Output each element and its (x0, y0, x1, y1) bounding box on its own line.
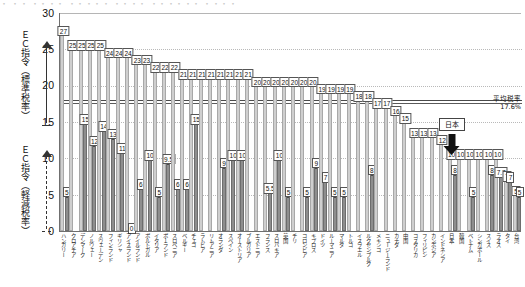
bar-group[interactable] (199, 13, 208, 231)
standard-rate-bar[interactable] (384, 107, 388, 231)
bar-group[interactable] (273, 13, 282, 231)
reduced-rate-bar[interactable] (102, 129, 106, 231)
bar-group[interactable] (282, 13, 291, 231)
bar-group[interactable] (263, 13, 272, 231)
standard-rate-bar[interactable] (106, 57, 110, 231)
reduced-rate-bar[interactable] (83, 122, 87, 231)
standard-rate-bar[interactable] (69, 49, 73, 231)
bar-group[interactable] (162, 13, 171, 231)
bar-group[interactable] (116, 13, 125, 231)
standard-rate-bar[interactable] (513, 195, 517, 231)
bar-group[interactable] (476, 13, 485, 231)
reduced-rate-bar[interactable] (111, 137, 115, 231)
bar-group[interactable] (153, 13, 162, 231)
reduced-rate-bar[interactable] (277, 158, 281, 231)
standard-rate-bar[interactable] (328, 93, 332, 231)
reduced-rate-bar[interactable] (194, 122, 198, 231)
standard-rate-bar[interactable] (476, 158, 480, 231)
reduced-rate-bar[interactable] (92, 144, 96, 231)
standard-rate-bar[interactable] (291, 86, 295, 231)
standard-rate-bar[interactable] (171, 71, 175, 231)
bar-group[interactable] (504, 13, 513, 231)
standard-rate-bar[interactable] (282, 86, 286, 231)
standard-rate-bar[interactable] (125, 57, 129, 231)
standard-rate-bar[interactable] (153, 71, 157, 231)
bar-group[interactable] (347, 13, 356, 231)
bar-group[interactable] (291, 13, 300, 231)
bar-group[interactable] (254, 13, 263, 231)
standard-rate-bar[interactable] (208, 78, 212, 231)
reduced-rate-bar[interactable] (370, 173, 374, 231)
standard-rate-bar[interactable] (402, 122, 406, 231)
standard-rate-bar[interactable] (504, 180, 508, 231)
standard-rate-bar[interactable] (319, 93, 323, 231)
reduced-rate-bar[interactable] (166, 162, 170, 231)
bar-group[interactable] (420, 13, 429, 231)
reduced-rate-bar[interactable] (490, 173, 494, 231)
reduced-rate-bar[interactable] (139, 187, 143, 231)
reduced-rate-bar[interactable] (231, 158, 235, 231)
standard-rate-bar[interactable] (97, 49, 101, 231)
standard-rate-bar[interactable] (60, 35, 64, 231)
reduced-rate-bar[interactable] (305, 195, 309, 231)
reduced-rate-bar[interactable] (453, 173, 457, 231)
reduced-rate-bar[interactable] (120, 151, 124, 231)
standard-rate-bar[interactable] (457, 158, 461, 231)
reduced-rate-bar[interactable] (65, 195, 69, 231)
standard-rate-bar[interactable] (347, 93, 351, 231)
standard-rate-bar[interactable] (356, 100, 360, 231)
standard-rate-bar[interactable] (79, 49, 83, 231)
bar-group[interactable] (485, 13, 494, 231)
bar-group[interactable] (328, 13, 337, 231)
standard-rate-bar[interactable] (420, 137, 424, 231)
bar-group[interactable] (300, 13, 309, 231)
reduced-rate-bar[interactable] (314, 166, 318, 231)
reduced-rate-bar[interactable] (499, 175, 503, 231)
standard-rate-bar[interactable] (300, 86, 304, 231)
bar-group[interactable] (430, 13, 439, 231)
bar-group[interactable] (208, 13, 217, 231)
standard-rate-bar[interactable] (254, 86, 258, 231)
reduced-rate-bar[interactable] (157, 195, 161, 231)
bar-group[interactable] (365, 13, 374, 231)
reduced-rate-bar[interactable] (176, 187, 180, 231)
reduced-rate-bar[interactable] (471, 195, 475, 231)
bar-group[interactable] (467, 13, 476, 231)
reduced-rate-bar[interactable] (148, 158, 152, 231)
bar-group[interactable] (319, 13, 328, 231)
standard-rate-bar[interactable] (162, 71, 166, 231)
bar-group[interactable] (245, 13, 254, 231)
reduced-rate-bar[interactable] (185, 187, 189, 231)
bar-group[interactable] (513, 13, 522, 231)
reduced-rate-bar[interactable] (268, 191, 272, 231)
reduced-rate-bar[interactable] (333, 195, 337, 231)
bar-group[interactable] (180, 13, 189, 231)
standard-rate-bar[interactable] (180, 78, 184, 231)
bar-group[interactable] (356, 13, 365, 231)
reduced-rate-bar[interactable] (222, 166, 226, 231)
standard-rate-bar[interactable] (411, 137, 415, 231)
standard-rate-bar[interactable] (263, 86, 267, 231)
standard-rate-bar[interactable] (374, 107, 378, 231)
standard-rate-bar[interactable] (143, 64, 147, 231)
standard-rate-bar[interactable] (217, 78, 221, 231)
bar-group[interactable] (411, 13, 420, 231)
reduced-rate-bar[interactable] (342, 195, 346, 231)
standard-rate-bar[interactable] (337, 93, 341, 231)
bar-group[interactable] (171, 13, 180, 231)
bar-group[interactable] (337, 13, 346, 231)
reduced-rate-bar[interactable] (240, 158, 244, 231)
bar-group[interactable] (226, 13, 235, 231)
reduced-rate-bar[interactable] (517, 195, 521, 231)
bar-group[interactable] (143, 13, 152, 231)
bar-group[interactable] (494, 13, 503, 231)
bar-group[interactable] (217, 13, 226, 231)
standard-rate-bar[interactable] (430, 137, 434, 231)
bar-group[interactable] (236, 13, 245, 231)
standard-rate-bar[interactable] (439, 144, 443, 231)
bar-group[interactable] (125, 13, 134, 231)
standard-rate-bar[interactable] (245, 78, 249, 231)
reduced-rate-bar[interactable] (286, 195, 290, 231)
bar-group[interactable] (134, 13, 143, 231)
standard-rate-bar[interactable] (393, 115, 397, 231)
